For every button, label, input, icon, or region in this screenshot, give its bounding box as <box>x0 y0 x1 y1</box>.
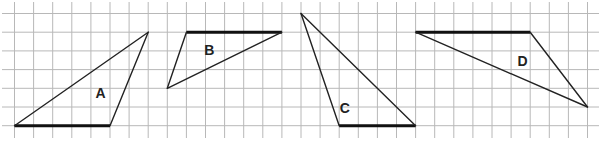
triangle-edge <box>15 32 149 126</box>
triangle-label: A <box>95 85 105 101</box>
triangle-label: C <box>340 100 350 116</box>
triangle-grid-diagram: ABCD <box>0 0 601 152</box>
grid <box>2 2 599 138</box>
triangle-a: A <box>15 32 149 126</box>
triangle-label: B <box>204 42 214 58</box>
triangle-label: D <box>517 53 527 69</box>
